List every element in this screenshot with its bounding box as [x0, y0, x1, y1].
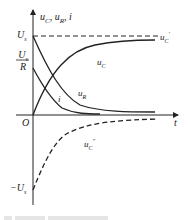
label-uc-double-prime: uC″	[84, 138, 95, 151]
tick-label-neg-us: −Us	[10, 183, 26, 195]
tick-label-us-over-r-denominator: R	[16, 62, 30, 72]
label-uc: uC	[97, 58, 106, 69]
series-uc	[33, 40, 155, 115]
figure-caption-faint	[4, 208, 184, 216]
origin-label: O	[22, 118, 29, 128]
tick-label-us: Us	[17, 30, 27, 42]
label-uc-prime: uC′	[160, 31, 170, 44]
series-uc-double-prime	[33, 119, 158, 190]
x-axis-label: t	[174, 118, 177, 128]
y-axis-label: uC, uR, i	[40, 12, 72, 25]
label-ur: uR	[78, 89, 86, 100]
rc-charging-chart: uC, uR, i Us Us R O t −Us uC′ uC uR i uC…	[0, 0, 190, 220]
series-ur	[33, 36, 155, 112]
label-i: i	[58, 95, 61, 104]
